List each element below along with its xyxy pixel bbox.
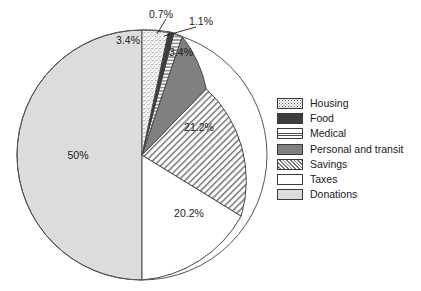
legend-item-medical[interactable]: Medical (277, 126, 417, 141)
legend-swatch-savings (277, 159, 303, 170)
legend-label-medical: Medical (310, 128, 346, 139)
slice-label-donations: 50% (67, 149, 88, 161)
legend-item-food[interactable]: Food (277, 111, 417, 126)
legend-swatch-housing (277, 98, 303, 109)
legend-item-housing[interactable]: Housing (277, 96, 417, 111)
legend-swatch-food (277, 113, 303, 124)
slice-label-savings: 21.2% (184, 121, 214, 133)
legend-swatch-personal-and-transit (277, 144, 303, 155)
legend-swatch-donations (277, 189, 303, 200)
legend-label-food: Food (310, 113, 334, 124)
slice-label-housing: 3.4% (116, 34, 140, 46)
slice-label-food: 0.7% (149, 8, 173, 20)
legend-label-taxes: Taxes (310, 174, 337, 185)
slice-label-personal-and-transit: 3.4% (169, 46, 193, 58)
slice-label-taxes: 20.2% (174, 207, 204, 219)
slice-label-medical: 1.1% (189, 15, 213, 27)
legend-item-savings[interactable]: Savings (277, 157, 417, 172)
legend-swatch-medical (277, 128, 303, 139)
legend-item-personal-and-transit[interactable]: Personal and transit (277, 142, 417, 157)
chart-legend: Housing Food Medical Personal and transi… (277, 96, 417, 202)
legend-label-personal-and-transit: Personal and transit (310, 144, 403, 155)
legend-label-housing: Housing (310, 98, 349, 109)
legend-item-taxes[interactable]: Taxes (277, 172, 417, 187)
legend-label-donations: Donations (310, 189, 357, 200)
legend-swatch-taxes (277, 174, 303, 185)
legend-label-savings: Savings (310, 159, 347, 170)
legend-item-donations[interactable]: Donations (277, 187, 417, 202)
pie-chart: 3.4% 0.7% 1.1% 3.4% 21.2% 20.2% 50% Hous… (0, 0, 421, 291)
